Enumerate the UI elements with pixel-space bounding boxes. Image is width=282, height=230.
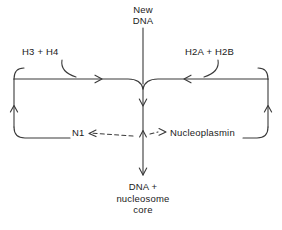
n1-dashed-connector <box>90 133 133 136</box>
label-nucleoplasmin: Nucleoplasmin <box>170 127 235 138</box>
label-n1: N1 <box>72 127 85 138</box>
nucleoplasmin-arrowhead <box>159 129 166 136</box>
right-inflow-arm <box>143 79 268 89</box>
nucleoplasmin-dashed-connector <box>150 132 158 134</box>
left-loop-bottom <box>14 127 70 138</box>
h2a-h2b-feed-curve <box>204 60 218 77</box>
right-loop-top-corner <box>258 68 268 79</box>
h3-h4-feed-curve <box>62 60 76 77</box>
label-h3-h4: H3 + H4 <box>22 46 59 57</box>
label-h2a-h2b: H2A + H2B <box>185 46 234 57</box>
left-loop-top-corner <box>14 68 24 79</box>
nucleosome-assembly-diagram: New DNA H3 + H4 H2A + H2B N1 Nucleoplasm… <box>0 0 282 230</box>
label-new-dna: New DNA <box>133 4 154 26</box>
right-loop-bottom <box>243 127 268 138</box>
left-inflow-arm <box>14 79 143 89</box>
label-product: DNA + nucleosome core <box>116 181 169 216</box>
